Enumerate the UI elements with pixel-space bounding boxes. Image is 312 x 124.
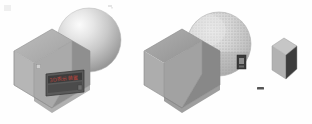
info-plate[interactable]: 3D表示装置 — [46, 70, 84, 96]
plate-chip — [78, 85, 82, 90]
image-canvas: 3D表示装置 — [0, 0, 312, 124]
dark-marker-chip[interactable] — [237, 55, 246, 69]
small-dash-mark — [257, 87, 264, 90]
render-scene-svg: 3D表示装置 — [0, 0, 312, 124]
